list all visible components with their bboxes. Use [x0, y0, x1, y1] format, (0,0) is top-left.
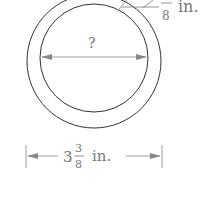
outer-numerator: 3 — [75, 142, 82, 155]
thickness-denominator: 8 — [162, 9, 170, 23]
inner-circle — [40, 4, 148, 112]
outer-whole: 3 — [63, 148, 73, 166]
outer-denominator: 8 — [75, 158, 82, 171]
thickness-label: 8 in. — [161, 0, 199, 23]
inner-diameter-arrow — [41, 54, 147, 60]
outer-circle — [27, 0, 161, 128]
inner-diameter-label: ? — [88, 35, 96, 51]
thickness-unit: in. — [178, 0, 199, 16]
outer-unit: in. — [92, 147, 111, 165]
pipe-diagram: 8 in. ? 3 3 8 in. — [0, 0, 201, 203]
outer-diameter-label: 3 3 8 in. — [63, 142, 111, 171]
